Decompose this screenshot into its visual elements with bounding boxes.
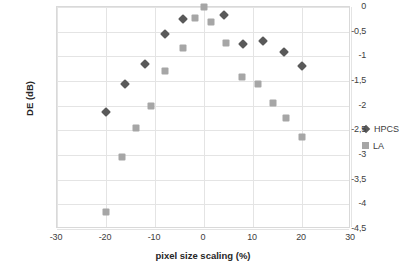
data-point-la (103, 208, 110, 215)
x-axis-title: pixel size scaling (%) (56, 250, 350, 261)
data-point-la (133, 125, 140, 132)
legend-item-la[interactable]: LA (362, 137, 416, 154)
data-point-hpcs (258, 36, 268, 46)
plot-area (56, 6, 350, 228)
data-point-la (223, 40, 230, 47)
data-point-la (148, 102, 155, 109)
data-point-la (254, 81, 261, 88)
gridline-vertical (302, 7, 303, 227)
x-axis-tick-label: 30 (345, 232, 355, 242)
data-point-la (283, 115, 290, 122)
data-point-hpcs (178, 14, 188, 24)
y-axis-tick-label: -1,5 (351, 75, 366, 85)
data-point-la (299, 134, 306, 141)
data-point-la (179, 45, 186, 52)
gridline-vertical (351, 7, 352, 227)
scatter-chart: DE (dB) pixel size scaling (%) HPCSLA 0-… (0, 0, 418, 276)
gridline-horizontal (57, 204, 349, 205)
gridline-vertical (106, 7, 107, 227)
y-axis-title: DE (dB) (24, 69, 35, 129)
y-axis-tick-label: -0,5 (351, 26, 366, 36)
gridline-horizontal (57, 81, 349, 82)
gridline-horizontal (57, 130, 349, 131)
data-point-la (161, 68, 168, 75)
x-axis-tick-label: 0 (201, 232, 206, 242)
y-axis-tick-label: -2 (358, 100, 366, 110)
y-axis-tick-label: -3 (358, 149, 366, 159)
x-axis-tick-label: -30 (50, 232, 62, 242)
x-axis-tick-label: -20 (99, 232, 111, 242)
gridline-horizontal (57, 155, 349, 156)
data-point-hpcs (238, 39, 248, 49)
gridline-horizontal (57, 106, 349, 107)
data-point-hpcs (140, 59, 150, 69)
data-point-la (208, 18, 215, 25)
gridline-horizontal (57, 32, 349, 33)
gridline-horizontal (57, 56, 349, 57)
gridline-vertical (253, 7, 254, 227)
y-axis-tick-label: 0 (361, 1, 366, 11)
y-axis-tick-label: -1 (358, 50, 366, 60)
gridline-vertical (57, 7, 58, 227)
data-point-la (239, 74, 246, 81)
data-point-la (269, 99, 276, 106)
legend-item-label: HPCS (374, 124, 399, 134)
legend-item-label: LA (373, 141, 384, 151)
data-point-la (201, 4, 208, 11)
y-axis-tick-label: -3,5 (351, 174, 366, 184)
data-point-la (118, 154, 125, 161)
square-icon (362, 142, 369, 149)
x-axis-tick-label: 20 (296, 232, 306, 242)
data-point-hpcs (160, 29, 170, 39)
chart-legend: HPCSLA (362, 120, 416, 154)
y-axis-tick-label: -4 (358, 198, 366, 208)
gridline-vertical (204, 7, 205, 227)
gridline-horizontal (57, 180, 349, 181)
gridline-vertical (155, 7, 156, 227)
data-point-hpcs (297, 61, 307, 71)
y-axis-tick-label: -2,5 (351, 124, 366, 134)
gridline-horizontal (57, 229, 349, 230)
x-axis-tick-label: -10 (148, 232, 160, 242)
data-point-hpcs (101, 107, 111, 117)
data-point-hpcs (219, 10, 229, 20)
x-axis-tick-label: 10 (247, 232, 257, 242)
legend-item-hpcs[interactable]: HPCS (362, 120, 416, 137)
data-point-la (192, 15, 199, 22)
